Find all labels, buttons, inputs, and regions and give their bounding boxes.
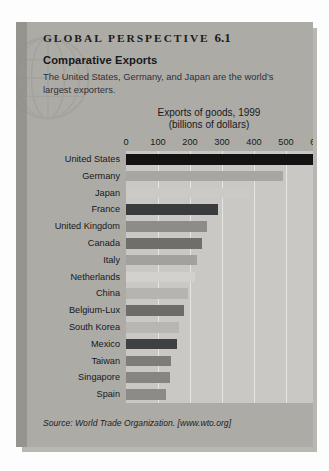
bar-track [126, 386, 313, 403]
x-tick-600: 600 [310, 137, 313, 147]
x-tick-200: 200 [182, 137, 197, 147]
bar-row: China [27, 285, 313, 302]
bar-china [126, 288, 188, 299]
bar-row: South Korea [27, 319, 313, 336]
bar-label-taiwan: Taiwan [27, 353, 120, 370]
bar-row: Singapore [27, 369, 313, 386]
bar-track [126, 235, 313, 252]
bar-taiwan [126, 356, 171, 367]
bar-label-belgium-lux: Belgium-Lux [27, 302, 120, 319]
bar-track [126, 168, 313, 185]
bar-row: Japan [27, 185, 313, 202]
bar-label-netherlands: Netherlands [27, 269, 120, 286]
kicker-label: GLOBAL PERSPECTIVE [43, 32, 210, 44]
page-root: GLOBAL PERSPECTIVE 6.1 Comparative Expor… [0, 0, 329, 471]
bar-track [126, 369, 313, 386]
bar-track [126, 151, 313, 168]
bar-row: Belgium-Lux [27, 302, 313, 319]
bar-label-france: France [27, 201, 120, 218]
chart-subtitle: (billions of dollars) [105, 119, 313, 131]
bar-label-japan: Japan [27, 185, 120, 202]
bar-track [126, 185, 313, 202]
bar-track [126, 319, 313, 336]
bar-track [126, 353, 313, 370]
kicker-number: 6.1 [215, 30, 231, 45]
bar-united-kingdom [126, 221, 207, 232]
bar-label-south-korea: South Korea [27, 319, 120, 336]
bar-track [126, 269, 313, 286]
bar-label-canada: Canada [27, 235, 120, 252]
bar-row: Mexico [27, 336, 313, 353]
panel-header: GLOBAL PERSPECTIVE 6.1 Comparative Expor… [43, 30, 303, 96]
bar-belgium-lux [126, 305, 184, 316]
x-tick-300: 300 [214, 137, 229, 147]
bar-spain [126, 389, 166, 400]
exports-bar-chart: Exports of goods, 1999 (billions of doll… [27, 107, 313, 407]
bar-singapore [126, 372, 170, 383]
bar-japan [126, 188, 250, 199]
x-tick-500: 500 [278, 137, 293, 147]
x-tick-0: 0 [123, 137, 128, 147]
x-tick-400: 400 [246, 137, 261, 147]
bar-row: Netherlands [27, 269, 313, 286]
x-tick-100: 100 [150, 137, 165, 147]
bar-track [126, 218, 313, 235]
x-axis-tick-labels: 0100200300400500600 [121, 137, 313, 150]
bar-track [126, 336, 313, 353]
bar-label-singapore: Singapore [27, 369, 120, 386]
bar-row: Canada [27, 235, 313, 252]
bar-france [126, 204, 218, 215]
global-perspective-panel: GLOBAL PERSPECTIVE 6.1 Comparative Expor… [16, 22, 313, 447]
bar-germany [126, 171, 283, 182]
bar-italy [126, 255, 197, 266]
bar-row: Italy [27, 252, 313, 269]
bar-netherlands [126, 272, 195, 283]
bar-rows: United StatesGermanyJapanFranceUnited Ki… [27, 151, 313, 403]
bar-label-germany: Germany [27, 168, 120, 185]
bar-label-united-kingdom: United Kingdom [27, 218, 120, 235]
chart-title: Exports of goods, 1999 [105, 107, 313, 119]
bar-track [126, 201, 313, 218]
plot-wrapper: 0100200300400500600 United StatesGermany… [27, 137, 313, 405]
panel-blurb: The United States, Germany, and Japan ar… [43, 71, 297, 96]
bar-row: United States [27, 151, 313, 168]
bar-label-italy: Italy [27, 252, 120, 269]
panel-left-accent-band [16, 22, 27, 447]
bar-label-united-states: United States [27, 151, 120, 168]
bar-track [126, 285, 313, 302]
source-note: Source: World Trade Organization. [www.w… [43, 418, 305, 428]
bar-row: France [27, 201, 313, 218]
bar-label-mexico: Mexico [27, 336, 120, 353]
bar-label-spain: Spain [27, 386, 120, 403]
panel-kicker: GLOBAL PERSPECTIVE 6.1 [43, 30, 303, 46]
bar-united-states [126, 154, 313, 165]
bar-label-china: China [27, 285, 120, 302]
bar-row: Spain [27, 386, 313, 403]
bar-mexico [126, 339, 177, 350]
bar-track [126, 252, 313, 269]
bar-canada [126, 238, 202, 249]
panel-subhead: Comparative Exports [43, 54, 303, 66]
bar-row: Taiwan [27, 353, 313, 370]
bar-track [126, 302, 313, 319]
bar-row: Germany [27, 168, 313, 185]
chart-title-block: Exports of goods, 1999 (billions of doll… [105, 107, 313, 132]
bar-south-korea [126, 322, 179, 333]
bar-row: United Kingdom [27, 218, 313, 235]
